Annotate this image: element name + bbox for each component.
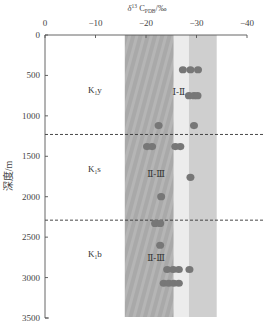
x-tick-label: −40	[240, 18, 255, 28]
kerogen-type-label: Ⅱ-Ⅲ	[147, 169, 165, 179]
data-point	[175, 266, 183, 273]
data-point	[186, 66, 194, 73]
data-point	[176, 143, 184, 150]
x-tick-label: −20	[139, 18, 154, 28]
data-point	[186, 174, 194, 181]
y-tick-label: 2000	[22, 192, 41, 202]
y-tick-label: 0	[36, 30, 41, 40]
isotope-depth-chart: 0−10−20−30−40050010001500200025003000350…	[0, 0, 263, 333]
data-point	[175, 280, 183, 287]
data-point	[155, 122, 163, 129]
x-axis-title: δ13 CPDB/‰	[128, 3, 167, 14]
y-tick-label: 3000	[22, 273, 41, 283]
data-point	[185, 266, 193, 273]
y-tick-label: 500	[27, 70, 41, 80]
data-point	[194, 92, 202, 99]
y-tick-label: 3500	[22, 313, 41, 323]
x-tick-label: −10	[88, 18, 103, 28]
formation-label: K1b	[88, 249, 102, 260]
data-point	[194, 66, 202, 73]
y-tick-label: 1500	[22, 151, 41, 161]
isotope-bands	[125, 35, 217, 317]
x-tick-label: −30	[189, 18, 204, 28]
y-tick-label: 2500	[22, 232, 41, 242]
data-point	[179, 66, 187, 73]
data-point	[148, 143, 156, 150]
x-tick-label: 0	[43, 18, 48, 28]
light-band	[174, 35, 189, 317]
y-axis-title: 深度/m	[2, 161, 14, 192]
formation-label: K1y	[88, 85, 102, 96]
data-point	[156, 242, 164, 249]
data-point	[157, 193, 165, 200]
data-point	[156, 220, 164, 227]
y-tick-label: 1000	[22, 111, 41, 121]
formation-label: K1s	[88, 164, 101, 175]
data-point	[190, 122, 198, 129]
kerogen-type-label: Ⅰ-Ⅱ	[172, 87, 185, 97]
kerogen-type-label: Ⅱ-Ⅲ	[147, 253, 165, 263]
